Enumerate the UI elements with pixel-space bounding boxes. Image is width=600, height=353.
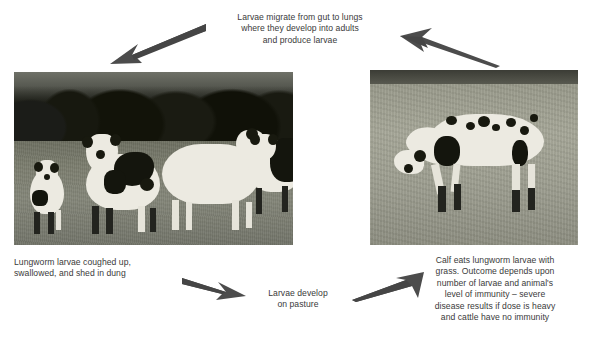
label-larvae-migrate: Larvae migrate from gut to lungs where t… — [200, 12, 400, 46]
label-larvae-coughed-up: Lungworm larvae coughed up, swallowed, a… — [14, 257, 204, 280]
cow-front-center — [80, 128, 172, 234]
photo-cattle-herd — [14, 72, 293, 245]
photo-grazing-calf — [370, 70, 578, 245]
cow-grazing — [394, 110, 552, 220]
cow-calf-left — [28, 160, 72, 234]
arrow-to-left-photo — [106, 22, 206, 68]
diagram-canvas: Larvae migrate from gut to lungs where t… — [0, 0, 600, 353]
label-larvae-develop-on-pasture: Larvae develop on pasture — [238, 288, 358, 311]
label-calf-eats-larvae: Calf eats lungworm larvae with grass. Ou… — [404, 255, 586, 323]
arrow-from-right-photo — [398, 22, 504, 68]
cow-dark-right — [248, 122, 293, 218]
